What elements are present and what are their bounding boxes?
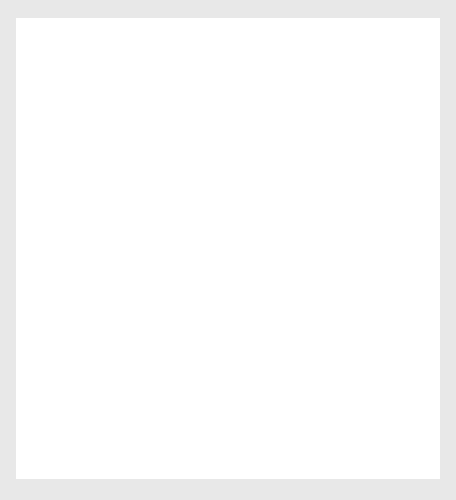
chart-bottom (16, 250, 440, 479)
chart-bottom-svg (16, 250, 440, 479)
chart-top-svg (16, 18, 440, 250)
chart-top (16, 18, 440, 250)
chart-page (16, 18, 440, 479)
